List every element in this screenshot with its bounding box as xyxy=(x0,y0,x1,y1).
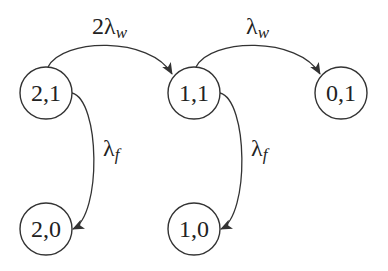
edge-1-1-to-1-0 xyxy=(220,93,242,229)
edge-1-1-to-0-1 xyxy=(196,45,320,74)
svg-text:2,0: 2,0 xyxy=(31,216,61,242)
state-node-0-1: 0,1 xyxy=(315,67,367,119)
state-node-1-1: 1,1 xyxy=(168,67,220,119)
edge-label-lambda-f-left: λf xyxy=(103,135,122,164)
state-node-2-0: 2,0 xyxy=(20,203,72,255)
edge-label-lambda-f-right: λf xyxy=(251,135,270,164)
edge-2-1-to-2-0 xyxy=(72,93,94,229)
state-node-1-0: 1,0 xyxy=(168,203,220,255)
svg-text:1,1: 1,1 xyxy=(179,80,209,106)
svg-text:1,0: 1,0 xyxy=(179,216,209,242)
edge-2-1-to-1-1 xyxy=(48,45,172,74)
edge-label-2lambda-w: 2λw xyxy=(92,13,128,42)
svg-text:2,1: 2,1 xyxy=(31,80,61,106)
svg-text:0,1: 0,1 xyxy=(326,80,356,106)
state-node-2-1: 2,1 xyxy=(20,67,72,119)
state-diagram: 2λw λw λf λf 2,1 1,1 0,1 2,0 1,0 xyxy=(0,0,388,271)
edge-label-lambda-w: λw xyxy=(246,13,270,42)
